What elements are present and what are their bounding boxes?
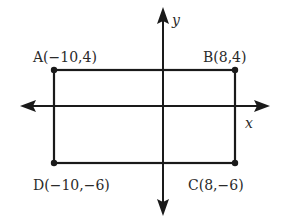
y-axis-label: y — [171, 12, 181, 28]
point-b-dot — [232, 67, 238, 73]
point-c-label: C(8,−6) — [188, 177, 244, 193]
point-d-label: D(−10,−6) — [33, 177, 110, 193]
x-axis-label: x — [245, 115, 253, 131]
point-d-dot — [51, 160, 57, 166]
point-a-label: A(−10,4) — [32, 49, 97, 65]
coordinate-plane: A(−10,4) B(8,4) C(8,−6) D(−10,−6) x y — [0, 0, 282, 220]
point-a-dot — [51, 67, 57, 73]
point-c-dot — [232, 160, 238, 166]
point-b-label: B(8,4) — [203, 49, 246, 65]
rectangle-abcd — [54, 70, 235, 163]
